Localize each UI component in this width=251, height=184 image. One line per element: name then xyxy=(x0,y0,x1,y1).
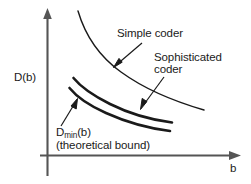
x-axis-arrowhead xyxy=(229,151,241,160)
arrow-simple-coder xyxy=(114,43,143,68)
curve-sophisticated-coder xyxy=(74,78,173,123)
dmin-argument: (b) xyxy=(77,126,91,138)
x-axis-label: b xyxy=(230,162,236,174)
annotation-label-theoretical-bound: (theoretical bound) xyxy=(56,139,150,151)
annotation-arrows-group xyxy=(61,43,164,126)
arrow-sophisticated-coder xyxy=(141,77,165,110)
dmin-base: D xyxy=(56,126,64,138)
y-axis-arrowhead xyxy=(43,8,52,19)
arrow-dmin-bound xyxy=(61,99,78,127)
annotation-label-simple-coder: Simple coder xyxy=(117,27,183,39)
annotation-label-sophisticated-coder: Sophisticatedcoder xyxy=(154,51,222,75)
y-axis-label: D(b) xyxy=(14,71,36,83)
sophisticated-line-2: coder xyxy=(154,63,182,75)
sophisticated-line-1: Sophisticated xyxy=(154,51,222,63)
annotation-label-dmin: Dmin(b) xyxy=(56,126,91,139)
rate-distortion-figure: Simple coder Sophisticatedcoder Dmin(b) … xyxy=(0,0,251,184)
